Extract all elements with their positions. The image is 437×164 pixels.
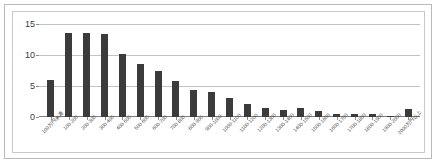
bar-slot xyxy=(274,24,292,117)
chart-screenshot: 051015 100万円未満100-200200-300300-400400-5… xyxy=(0,0,437,164)
y-tick-mark xyxy=(36,117,39,118)
plot-area: 051015 xyxy=(39,24,420,117)
chart-plot-frame: 051015 100万円未満100-200200-300300-400400-5… xyxy=(12,11,425,153)
x-label-slot: 2000万円以上 xyxy=(399,119,417,164)
bar-slot xyxy=(221,24,239,117)
bar-slot xyxy=(363,24,381,117)
x-label-slot: 800-900 xyxy=(185,119,203,164)
bar xyxy=(190,90,197,117)
bar xyxy=(172,81,179,117)
bar-slot xyxy=(113,24,131,117)
x-label-slot: 1700-1800 xyxy=(346,119,364,164)
x-label-slot: 1100-1200 xyxy=(238,119,256,164)
bar-slot xyxy=(238,24,256,117)
x-label-slot: 1500-1600 xyxy=(310,119,328,164)
bar xyxy=(155,71,162,118)
bar-slot xyxy=(328,24,346,117)
x-axis-labels: 100万円未満100-200200-300300-400400-500500-6… xyxy=(39,119,420,164)
bar-slot xyxy=(96,24,114,117)
bar-slot xyxy=(381,24,399,117)
x-label-slot: 1800-1900 xyxy=(363,119,381,164)
x-label-slot: 1600-1700 xyxy=(328,119,346,164)
bar-slot xyxy=(310,24,328,117)
y-tick-label: 10 xyxy=(25,51,35,60)
bar-slot xyxy=(131,24,149,117)
x-label-slot: 1900-2000 xyxy=(381,119,399,164)
bar xyxy=(119,54,126,117)
bar-slot xyxy=(346,24,364,117)
y-tick-label: 0 xyxy=(30,113,35,122)
x-label-slot: 1000-1100 xyxy=(221,119,239,164)
bar xyxy=(101,34,108,117)
x-label-slot: 300-400 xyxy=(96,119,114,164)
bar-slot xyxy=(60,24,78,117)
x-label-slot: 200-300 xyxy=(78,119,96,164)
x-label-slot: 500-600 xyxy=(131,119,149,164)
bar xyxy=(47,80,54,117)
bar-slot xyxy=(167,24,185,117)
x-label-slot: 700-800 xyxy=(167,119,185,164)
bar-slot xyxy=(292,24,310,117)
x-label-slot: 400-500 xyxy=(113,119,131,164)
x-label-slot: 600-700 xyxy=(149,119,167,164)
bar-slot xyxy=(185,24,203,117)
y-tick-label: 15 xyxy=(25,20,35,29)
bar xyxy=(83,33,90,117)
bar xyxy=(208,92,215,117)
bar-slot xyxy=(78,24,96,117)
bar xyxy=(65,33,72,117)
bar xyxy=(137,64,144,117)
bar-series xyxy=(39,24,420,117)
bar-slot xyxy=(203,24,221,117)
y-tick-label: 5 xyxy=(30,82,35,91)
x-label-slot: 1400-1500 xyxy=(292,119,310,164)
x-label-slot: 100万円未満 xyxy=(42,119,60,164)
x-label-slot: 100-200 xyxy=(60,119,78,164)
x-label-slot: 1300-1400 xyxy=(274,119,292,164)
bar xyxy=(226,98,233,117)
chart-outer-frame: 051015 100万円未満100-200200-300300-400400-5… xyxy=(4,4,432,159)
bar-slot xyxy=(149,24,167,117)
x-label-slot: 1200-1300 xyxy=(256,119,274,164)
bar-slot xyxy=(399,24,417,117)
bar-slot xyxy=(42,24,60,117)
x-label-slot: 900-1000 xyxy=(203,119,221,164)
bar-slot xyxy=(256,24,274,117)
